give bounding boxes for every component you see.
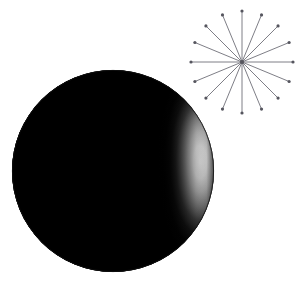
canvas-stage bbox=[0, 0, 302, 289]
starburst-ray-tip-dot bbox=[260, 13, 263, 16]
starburst-ray bbox=[242, 62, 278, 98]
starburst-ray-tip-dot bbox=[189, 60, 192, 63]
starburst-hub-dot bbox=[240, 60, 244, 64]
starburst-ray-tip-dot bbox=[288, 41, 291, 44]
starburst-ray-tip-dot bbox=[276, 24, 279, 27]
starburst-group bbox=[189, 9, 294, 114]
sphere-group bbox=[12, 70, 215, 272]
starburst-ray-tip-dot bbox=[204, 24, 207, 27]
starburst-ray-tip-dot bbox=[276, 96, 279, 99]
starburst-ray-tip-dot bbox=[193, 41, 196, 44]
starburst-ray bbox=[242, 26, 278, 62]
starburst-ray-tip-dot bbox=[240, 9, 243, 12]
starburst-ray-tip-dot bbox=[221, 108, 224, 111]
starburst-ray-tip-dot bbox=[291, 60, 294, 63]
starburst-ray-tip-dot bbox=[260, 108, 263, 111]
starburst-ray bbox=[206, 26, 242, 62]
starburst-ray bbox=[206, 62, 242, 98]
starburst-ray-tip-dot bbox=[288, 80, 291, 83]
starburst-ray-tip-dot bbox=[240, 111, 243, 114]
starburst-ray-tip-dot bbox=[221, 13, 224, 16]
shapes-canvas bbox=[0, 0, 302, 289]
starburst-ray-tip-dot bbox=[193, 80, 196, 83]
starburst-ray-tip-dot bbox=[204, 96, 207, 99]
